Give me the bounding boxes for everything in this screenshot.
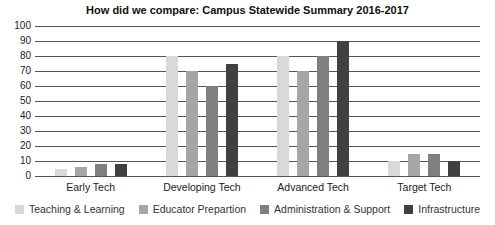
- y-tick-label: 60: [0, 81, 31, 91]
- bar: [277, 56, 289, 176]
- y-tick-label: 90: [0, 36, 31, 46]
- bar: [448, 161, 460, 176]
- gridline: [35, 101, 480, 102]
- bar: [428, 154, 440, 177]
- x-tick-label: Early Tech: [35, 181, 146, 193]
- bar: [115, 164, 127, 176]
- gridline: [35, 116, 480, 117]
- chart-title: How did we compare: Campus Statewide Sum…: [0, 4, 495, 16]
- gridline: [35, 56, 480, 57]
- legend-label: Administration & Support: [274, 203, 390, 215]
- x-tick-label: Developing Tech: [146, 181, 257, 193]
- x-tick-label: Target Tech: [369, 181, 480, 193]
- bar: [55, 169, 67, 177]
- y-tick-label: 80: [0, 51, 31, 61]
- bar: [95, 164, 107, 176]
- bar: [408, 154, 420, 177]
- gridline: [35, 176, 480, 177]
- legend-item: Educator Prepartion: [139, 203, 246, 215]
- legend-item: Teaching & Learning: [15, 203, 125, 215]
- legend-swatch-icon: [260, 205, 269, 214]
- plot-area: [35, 26, 480, 176]
- legend-label: Teaching & Learning: [29, 203, 125, 215]
- bar: [337, 41, 349, 176]
- bar: [206, 86, 218, 176]
- bar: [226, 64, 238, 177]
- gridline: [35, 26, 480, 27]
- y-tick-label: 30: [0, 126, 31, 136]
- legend-item: Infrastructure: [404, 203, 480, 215]
- bar: [186, 71, 198, 176]
- y-tick-label: 40: [0, 111, 31, 121]
- bar: [317, 56, 329, 176]
- y-tick-label: 100: [0, 21, 31, 31]
- legend-swatch-icon: [404, 205, 413, 214]
- gridline: [35, 131, 480, 132]
- bar: [388, 161, 400, 176]
- y-tick-label: 20: [0, 141, 31, 151]
- legend-swatch-icon: [15, 205, 24, 214]
- y-tick-label: 10: [0, 156, 31, 166]
- gridline: [35, 146, 480, 147]
- legend: Teaching & LearningEducator PrepartionAd…: [0, 203, 495, 215]
- legend-item: Administration & Support: [260, 203, 390, 215]
- y-tick-label: 70: [0, 66, 31, 76]
- legend-label: Infrastructure: [418, 203, 480, 215]
- y-tick-label: 0: [0, 171, 31, 181]
- gridline: [35, 86, 480, 87]
- y-tick-label: 50: [0, 96, 31, 106]
- gridline: [35, 41, 480, 42]
- bar: [166, 56, 178, 176]
- x-tick-label: Advanced Tech: [258, 181, 369, 193]
- legend-label: Educator Prepartion: [153, 203, 246, 215]
- bar: [75, 167, 87, 176]
- gridline: [35, 71, 480, 72]
- legend-swatch-icon: [139, 205, 148, 214]
- bar: [297, 71, 309, 176]
